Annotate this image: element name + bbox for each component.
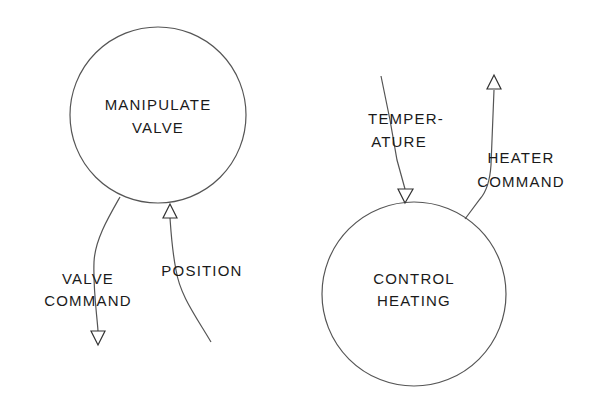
flow-label-line-2: COMMAND (44, 292, 132, 309)
arrowhead-down-icon (398, 189, 413, 203)
arrowhead-up-icon (487, 75, 501, 89)
arrowhead-down-icon (91, 331, 105, 345)
flow-label: POSITION (161, 262, 242, 279)
flow-valve-command: VALVE COMMAND (44, 197, 132, 345)
process-label-line-1: CONTROL (373, 270, 455, 287)
data-flow-diagram: MANIPULATE VALVE VALVE COMMAND POSITION … (0, 0, 602, 400)
flow-label-line-2: ATURE (371, 133, 427, 150)
flow-label-line-1: TEMPER- (368, 110, 444, 127)
flow-position: POSITION (161, 204, 242, 342)
process-label-line-2: VALVE (132, 119, 184, 136)
flow-temperature: TEMPER- ATURE (368, 76, 444, 203)
process-control-heating: CONTROL HEATING (322, 202, 506, 386)
process-label-line-1: MANIPULATE (105, 96, 212, 113)
process-circle (70, 27, 246, 203)
flow-line (94, 197, 120, 331)
flow-label-line-2: COMMAND (477, 173, 565, 190)
process-manipulate-valve: MANIPULATE VALVE (70, 27, 246, 203)
process-label-line-2: HEATING (377, 292, 451, 309)
arrowhead-up-icon (163, 204, 177, 218)
flow-line (170, 218, 211, 342)
flow-heater-command: HEATER COMMAND (465, 75, 565, 219)
flow-label-line-1: HEATER (488, 149, 555, 166)
flow-label-line-1: VALVE (62, 270, 114, 287)
